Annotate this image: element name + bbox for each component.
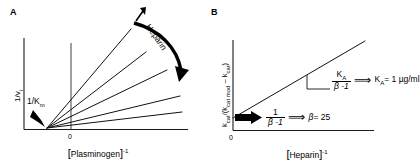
intercept-implies-arrow: ⟹ xyxy=(287,110,306,124)
panel-b-intercept-annotation: 1 β -1 ⟹ β= 25 xyxy=(266,108,330,127)
panel-b-x-axis-title: [Heparin]-1 xyxy=(286,149,327,160)
slope-result: KA= 1 µg/ml xyxy=(375,75,420,86)
panel-a-km-label: 1/Km xyxy=(27,97,45,108)
panel-b-zero-tick: 0 xyxy=(229,134,233,141)
data-line-2 xyxy=(47,96,180,128)
panel-a-zero-tick: 0 xyxy=(68,133,72,140)
slope-implies-arrow: ⟹ xyxy=(353,73,372,87)
panel-b-y-axis-title: kcat/(kcat mod – kcat) xyxy=(221,63,231,127)
panel-a-y-axis-title: 1/vi xyxy=(14,90,24,102)
panel-a-x-axis-title: [Plasminogen]-1 xyxy=(68,148,129,159)
panel-a: A xyxy=(0,0,200,168)
intercept-fraction: 1 β -1 xyxy=(266,108,285,127)
panel-b-slope-triangle xyxy=(307,75,330,89)
panel-b: B kcat/(kcat mod – kcat) KA xyxy=(199,0,399,168)
data-line-5 xyxy=(47,29,131,128)
data-line-1 xyxy=(47,112,182,128)
intercept-result: β= 25 xyxy=(309,113,331,122)
panel-a-km-arrow xyxy=(30,110,45,127)
panel-b-slope-annotation: KA β -1 ⟹ KA= 1 µg/ml xyxy=(332,70,420,91)
data-line-3 xyxy=(47,70,167,128)
slope-fraction: KA β -1 xyxy=(332,70,351,91)
panel-b-intercept-arrow xyxy=(235,111,262,124)
panel-a-plot xyxy=(0,0,200,168)
